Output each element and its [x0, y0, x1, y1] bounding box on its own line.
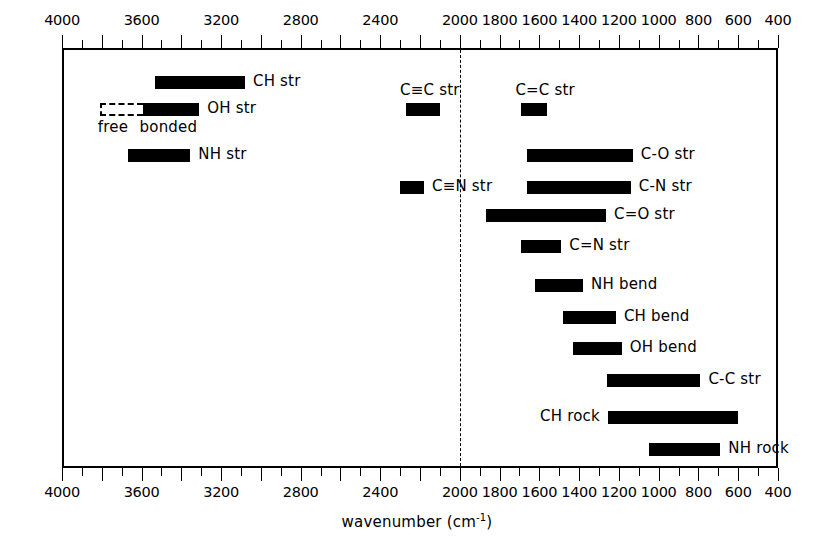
axis-tick-label-4000: 4000: [44, 484, 80, 500]
axis-tick-label-1200: 1200: [601, 484, 637, 500]
axis-tick-800: [698, 468, 699, 481]
band-label: CH rock: [540, 410, 600, 423]
band-row: C-O str: [0, 149, 834, 162]
band-row: CH rock: [0, 411, 834, 424]
band-label: C=C str: [515, 84, 575, 97]
band-row: C=C str: [0, 103, 834, 116]
axis-tick-3100: [241, 468, 242, 476]
axis-tick-2300: [400, 468, 401, 476]
axis-tick-label-800: 800: [685, 12, 712, 28]
axis-tick-label-2400: 2400: [362, 484, 398, 500]
axis-tick-label-400: 400: [765, 12, 792, 28]
band-bar: [155, 76, 245, 89]
axis-tick-3900: [82, 40, 83, 48]
axis-ruler-top: [62, 34, 778, 48]
axis-tick-2200: [420, 468, 421, 481]
axis-tick-label-1000: 1000: [641, 12, 677, 28]
axis-tick-400: [778, 35, 779, 48]
axis-tick-label-600: 600: [725, 484, 752, 500]
axis-tick-4000: [62, 35, 63, 48]
axis-tick-2100: [440, 468, 441, 476]
axis-tick-label-1800: 1800: [482, 484, 518, 500]
band-bar: [573, 342, 622, 355]
axis-ruler-bottom: [62, 468, 778, 482]
axis-tick-1900: [480, 468, 481, 476]
band-label: CH str: [253, 75, 301, 88]
axis-tick-label-1400: 1400: [561, 484, 597, 500]
axis-tick-800: [698, 35, 699, 48]
axis-tick-3100: [241, 40, 242, 48]
axis-tick-3900: [82, 468, 83, 476]
band-bar: [535, 279, 583, 292]
axis-tick-3200: [221, 468, 222, 481]
axis-tick-2000: [460, 468, 461, 481]
axis-tick-label-2800: 2800: [283, 12, 319, 28]
axis-tick-label-3200: 3200: [203, 484, 239, 500]
axis-tick-600: [738, 35, 739, 48]
x-axis-title-close: ): [486, 513, 492, 531]
axis-tick-label-1400: 1400: [561, 12, 597, 28]
axis-tick-2700: [321, 468, 322, 476]
band-label: C=N str: [569, 239, 629, 252]
axis-tick-label-2400: 2400: [362, 12, 398, 28]
band-row: C-N str: [0, 181, 834, 194]
axis-tick-label-1600: 1600: [521, 484, 557, 500]
axis-tick-1500: [559, 40, 560, 48]
axis-tick-3600: [142, 468, 143, 481]
axis-tick-labels-top: 4000360032002800240020001800160014001200…: [0, 12, 834, 32]
axis-tick-1700: [519, 40, 520, 48]
axis-tick-2900: [281, 468, 282, 476]
band-bar: [521, 240, 561, 253]
axis-tick-3800: [102, 35, 103, 48]
axis-tick-3500: [161, 40, 162, 48]
ir-correlation-chart: 4000360032002800240020001800160014001200…: [0, 0, 834, 552]
band-bar: [521, 103, 547, 116]
axis-tick-1000: [659, 35, 660, 48]
axis-tick-1800: [500, 468, 501, 481]
axis-tick-3000: [261, 468, 262, 481]
axis-tick-label-2000: 2000: [442, 12, 478, 28]
band-label: C=O str: [614, 208, 675, 221]
axis-tick-2800: [301, 35, 302, 48]
axis-tick-label-3200: 3200: [203, 12, 239, 28]
axis-tick-1300: [599, 40, 600, 48]
axis-tick-3700: [122, 468, 123, 476]
band-row: NH rock: [0, 443, 834, 456]
axis-tick-label-1000: 1000: [641, 484, 677, 500]
band-bar: [527, 149, 632, 162]
band-sublabel-bonded: bonded: [140, 118, 198, 136]
band-bar: [649, 443, 721, 456]
band-label: OH bend: [630, 341, 697, 354]
axis-tick-3400: [181, 468, 182, 481]
axis-tick-1600: [539, 468, 540, 481]
axis-tick-label-800: 800: [685, 484, 712, 500]
axis-tick-500: [758, 468, 759, 476]
axis-tick-1400: [579, 35, 580, 48]
band-row: C=O str: [0, 209, 834, 222]
band-label: C≡C str: [400, 84, 460, 97]
axis-tick-label-3600: 3600: [124, 484, 160, 500]
axis-tick-2300: [400, 40, 401, 48]
axis-tick-label-2800: 2800: [283, 484, 319, 500]
axis-tick-label-2000: 2000: [442, 484, 478, 500]
axis-tick-3200: [221, 35, 222, 48]
axis-tick-1500: [559, 468, 560, 476]
axis-tick-label-1600: 1600: [521, 12, 557, 28]
axis-tick-1700: [519, 468, 520, 476]
axis-tick-1100: [639, 40, 640, 48]
band-row: NH bend: [0, 279, 834, 292]
axis-tick-2400: [380, 468, 381, 481]
axis-tick-1900: [480, 40, 481, 48]
axis-tick-1200: [619, 468, 620, 481]
x-axis-title: wavenumber (cm-1): [0, 512, 834, 531]
axis-tick-1400: [579, 468, 580, 481]
band-sublabel-free: free: [98, 118, 128, 136]
axis-tick-3300: [201, 40, 202, 48]
axis-tick-2100: [440, 40, 441, 48]
axis-tick-2200: [420, 35, 421, 48]
axis-tick-4000: [62, 468, 63, 481]
band-label: CH bend: [624, 310, 690, 323]
band-bar: [608, 411, 738, 424]
band-row: CH bend: [0, 311, 834, 324]
axis-tick-3600: [142, 35, 143, 48]
